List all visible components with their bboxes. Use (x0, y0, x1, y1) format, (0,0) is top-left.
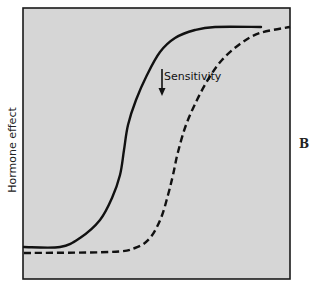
plot-svg (0, 0, 311, 286)
y-axis-label: Hormone effect (6, 107, 19, 193)
dose-response-figure: Sensitivity Hormone effect B (0, 0, 311, 286)
panel-label: B (299, 137, 309, 151)
sensitivity-annotation: Sensitivity (164, 70, 221, 83)
plot-frame (23, 8, 290, 279)
